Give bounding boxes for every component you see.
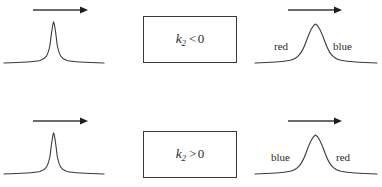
pulse-chirp-propagation-figure: k2<0 red blue k2>0	[0, 0, 382, 187]
leading-edge-label-top: red	[274, 40, 288, 52]
equation-subscript: 2	[181, 38, 186, 48]
propagation-direction-arrow-bottom-left	[33, 117, 88, 124]
equation-k2-positive: k2>0	[176, 146, 205, 163]
equation-relation: >	[189, 146, 197, 161]
equation-number: 0	[198, 31, 205, 46]
output-pulse-graphic-bottom	[250, 94, 382, 187]
narrow-pulse-curve-bottom	[4, 133, 104, 174]
equation-number: 0	[198, 146, 205, 161]
leading-edge-label-bottom: blue	[271, 151, 290, 163]
input-pulse-graphic-top	[0, 0, 132, 93]
trailing-edge-label-bottom: red	[336, 151, 350, 163]
equation-subscript: 2	[181, 153, 186, 163]
propagation-direction-arrow-bottom-right	[288, 117, 342, 124]
input-pulse-panel-top	[0, 0, 132, 93]
input-pulse-panel-bottom	[0, 94, 132, 187]
trailing-edge-label-top: blue	[333, 40, 352, 52]
equation-k2-negative: k2<0	[176, 31, 205, 48]
equation-relation: <	[189, 31, 197, 46]
propagation-direction-arrow-top-left	[33, 6, 88, 13]
medium-box-negative-gvd: k2<0	[143, 16, 237, 63]
input-pulse-graphic-bottom	[0, 94, 132, 187]
output-pulse-graphic-top	[250, 0, 382, 93]
medium-box-positive-gvd: k2>0	[143, 131, 237, 178]
output-pulse-panel-top: red blue	[250, 0, 382, 93]
propagation-direction-arrow-top-right	[288, 6, 342, 13]
output-pulse-panel-bottom: blue red	[250, 94, 382, 187]
narrow-pulse-curve-top	[4, 22, 104, 63]
